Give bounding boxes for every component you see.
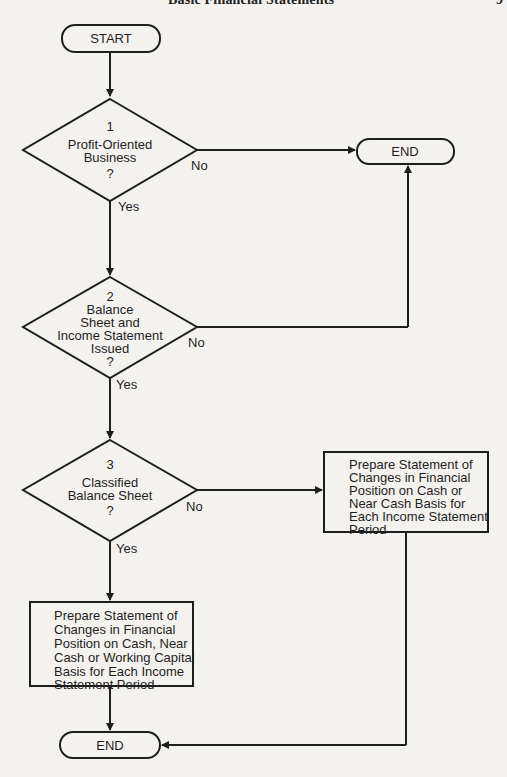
process-right-line: Period xyxy=(349,522,387,537)
decision-3-number: 3 xyxy=(106,457,113,472)
decision-1-number: 1 xyxy=(106,119,113,134)
decision-2-line: ? xyxy=(106,354,113,369)
process-left-line: Cash or Working Capital xyxy=(54,650,195,665)
process-left-line: Prepare Statement of xyxy=(54,608,178,623)
decision-3-no-label: No xyxy=(186,499,203,514)
process-left-line: Position on Cash, Near xyxy=(54,636,188,651)
decision-1-no-label: No xyxy=(191,158,208,173)
start-label: START xyxy=(90,31,131,46)
decision-2-yes-label: Yes xyxy=(116,377,138,392)
decision-3-yes-label: Yes xyxy=(116,541,138,556)
decision-1-line: Business xyxy=(84,150,137,165)
decision-1-yes-label: Yes xyxy=(118,199,140,214)
decision-2-no-label: No xyxy=(188,335,205,350)
end-bottom-label: END xyxy=(96,738,123,753)
decision-3-line: Balance Sheet xyxy=(68,488,153,503)
flowchart: START END END 1 Profit-Oriented Business… xyxy=(0,0,507,777)
process-left-line: Statement Period xyxy=(54,677,154,692)
end-top-label: END xyxy=(391,144,418,159)
decision-3-line: ? xyxy=(106,503,113,518)
decision-1-line: ? xyxy=(106,166,113,181)
process-left-line: Changes in Financial xyxy=(54,622,176,637)
